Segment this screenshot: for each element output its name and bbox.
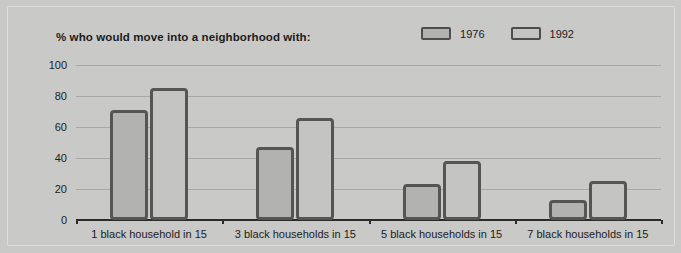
legend-item-1976: 1976: [421, 27, 484, 40]
bar-1976-2[interactable]: [256, 147, 294, 220]
bar-group: 1 black household in 15: [76, 65, 222, 220]
y-axis-tick-label-0: 0: [61, 214, 67, 226]
legend-swatch-1976: [421, 27, 451, 40]
bar-group: 7 black households in 15: [515, 65, 661, 220]
bar-1992-4[interactable]: [589, 181, 627, 220]
y-axis-tick-label-80: 80: [55, 90, 67, 102]
x-axis-tick-label: 1 black household in 15: [91, 228, 207, 240]
chart-figure: % who would move into a neighborhood wit…: [0, 0, 681, 253]
x-axis-tickmark: [76, 220, 78, 224]
x-axis-tickmark: [515, 220, 517, 224]
legend-item-1992: 1992: [511, 27, 574, 40]
bar-groups: 1 black household in 153 black household…: [76, 65, 661, 220]
legend-label-1992: 1992: [550, 28, 574, 40]
bar-1976-1[interactable]: [110, 110, 148, 220]
bar-group: 3 black households in 15: [222, 65, 368, 220]
x-axis-tick-label: 5 black households in 15: [381, 228, 502, 240]
y-axis-tick-label-40: 40: [55, 152, 67, 164]
bar-1992-1[interactable]: [150, 88, 188, 220]
x-axis-tickmark: [222, 220, 224, 224]
chart-plate: % who would move into a neighborhood wit…: [7, 6, 675, 246]
legend-swatch-1992: [511, 27, 541, 40]
y-axis-tick-label-100: 100: [49, 59, 67, 71]
bar-group: 5 black households in 15: [369, 65, 515, 220]
y-axis-tick-label-20: 20: [55, 183, 67, 195]
chart-legend: 1976 1992: [421, 27, 574, 40]
legend-label-1976: 1976: [460, 28, 484, 40]
y-axis-tick-label-60: 60: [55, 121, 67, 133]
chart-title: % who would move into a neighborhood wit…: [56, 31, 311, 43]
x-axis-tickmark: [369, 220, 371, 224]
bar-1976-3[interactable]: [403, 184, 441, 220]
x-axis-tickmark: [661, 220, 663, 224]
x-axis-tick-label: 3 black households in 15: [235, 228, 356, 240]
bar-1992-2[interactable]: [296, 118, 334, 220]
bar-1976-4[interactable]: [549, 200, 587, 220]
plot-area: 020406080100 1 black household in 153 bl…: [76, 65, 661, 220]
x-axis-tick-label: 7 black households in 15: [527, 228, 648, 240]
bar-1992-3[interactable]: [443, 161, 481, 220]
